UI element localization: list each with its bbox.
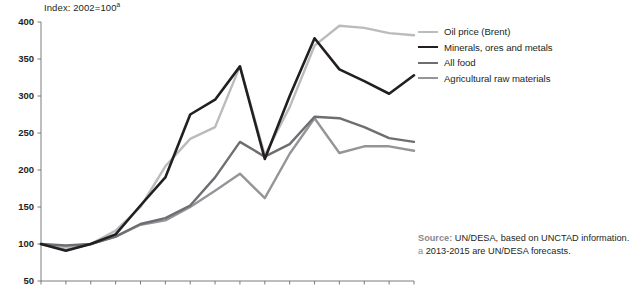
legend-item[interactable]: Oil price (Brent) (418, 24, 640, 40)
x-axis-tick-label: 2004 (130, 287, 151, 290)
legend-item-label: Oil price (Brent) (444, 26, 510, 37)
legend-item-label: All food (444, 57, 476, 68)
x-axis-tick-label: 2008 (229, 287, 250, 290)
source-line: Source: UN/DESA, based on UNCTAD informa… (418, 232, 636, 245)
footnote-marker: a (418, 246, 423, 256)
x-axis-tick-label: 2014 (379, 287, 400, 290)
chart-axis-title-footnote-marker: a (117, 1, 121, 8)
legend-swatch-line-icon (418, 77, 438, 79)
y-axis-tick-label: 50 (23, 275, 34, 286)
x-axis-tick-label: 2007 (204, 287, 225, 290)
x-axis-tick-label: 2005 (155, 287, 176, 290)
x-axis-tick-label: 2001 (55, 287, 76, 290)
series-line (41, 118, 414, 250)
legend-swatch-line-icon (418, 62, 438, 64)
chart-figure: Index: 2002=100a 50100150200250300350400… (0, 0, 640, 303)
chart-legend: Oil price (Brent)Minerals, ores and meta… (418, 24, 640, 86)
x-axis-tick-label: 2009 (254, 287, 275, 290)
legend-item-label: Agricultural raw materials (444, 73, 550, 84)
legend-swatch-line-icon (418, 46, 438, 48)
series-line (41, 26, 414, 247)
y-axis-tick-label: 250 (18, 127, 34, 138)
legend-item-label: Minerals, ores and metals (444, 42, 553, 53)
x-axis-tick-label: 2015 (403, 287, 420, 290)
y-axis-tick-label: 150 (18, 201, 34, 212)
y-axis-tick-label: 350 (18, 53, 34, 64)
x-axis-tick-label: 2012 (329, 287, 350, 290)
x-axis-tick-label: 2003 (105, 287, 126, 290)
plot-area: 5010015020025030035040020002001200220032… (0, 14, 420, 289)
legend-item[interactable]: Agricultural raw materials (418, 71, 640, 87)
chart-axis-title-text: Index: 2002=100 (44, 2, 117, 13)
x-axis-tick-label: 2010 (279, 287, 300, 290)
source-note: Source: UN/DESA, based on UNCTAD informa… (418, 232, 636, 257)
y-axis-tick-label: 100 (18, 238, 34, 249)
legend-item[interactable]: Minerals, ores and metals (418, 40, 640, 56)
y-axis-tick-label: 400 (18, 16, 34, 27)
x-axis-tick-label: 2006 (180, 287, 201, 290)
line-chart-svg: 5010015020025030035040020002001200220032… (0, 14, 420, 289)
x-axis-tick-label: 2013 (354, 287, 375, 290)
legend-swatch-line-icon (418, 31, 438, 33)
x-axis-tick-label: 2011 (304, 287, 324, 290)
series-line (41, 38, 414, 250)
footnote-line: a 2013-2015 are UN/DESA forecasts. (418, 245, 636, 258)
chart-axis-title: Index: 2002=100a (44, 2, 120, 13)
y-axis-tick-label: 300 (18, 90, 34, 101)
x-axis-tick-label: 2002 (80, 287, 101, 290)
source-label: Source: (418, 233, 452, 243)
footnote-text: 2013-2015 are UN/DESA forecasts. (426, 246, 571, 256)
x-axis-tick-label: 2000 (30, 287, 51, 290)
legend-item[interactable]: All food (418, 55, 640, 71)
source-text: UN/DESA, based on UNCTAD information. (455, 233, 629, 243)
y-axis-tick-label: 200 (18, 164, 34, 175)
